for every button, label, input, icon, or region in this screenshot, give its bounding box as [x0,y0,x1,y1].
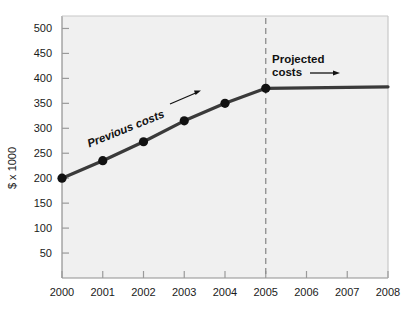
x-tick-label: 2006 [294,286,318,298]
x-tick-label: 2007 [335,286,359,298]
chart-canvas: 50100150200250300350400450500 2000200120… [0,0,402,312]
y-tick-label: 300 [34,122,52,134]
y-tick-label: 150 [34,197,52,209]
y-tick-label: 350 [34,97,52,109]
data-point-marker [139,137,148,146]
y-axis-title: $ x 1000 [6,147,18,189]
data-point-marker [180,116,189,125]
y-tick-label: 100 [34,222,52,234]
y-tick-label: 200 [34,172,52,184]
y-tick-label: 250 [34,147,52,159]
y-tick-label: 400 [34,72,52,84]
x-tick-label: 2000 [50,286,74,298]
projected-costs-annotation-line1: Projected [272,53,324,65]
x-tick-label: 2003 [172,286,196,298]
x-tick-label: 2004 [213,286,237,298]
data-point-marker [98,156,107,165]
y-tick-label: 450 [34,47,52,59]
y-tick-label: 500 [34,22,52,34]
x-tick-label: 2008 [376,286,400,298]
data-point-marker [57,174,66,183]
cost-projection-chart: 50100150200250300350400450500 2000200120… [0,0,402,312]
x-tick-label: 2005 [254,286,278,298]
projected-costs-line [266,87,388,88]
x-tick-label: 2002 [131,286,155,298]
plot-area-background [62,16,388,278]
x-axis-ticks: 200020012002200320042005200620072008 [50,271,400,298]
x-tick-label: 2001 [91,286,115,298]
data-point-marker [220,99,229,108]
data-point-marker [261,84,270,93]
projected-costs-annotation-line2: costs [272,66,302,78]
y-tick-label: 50 [40,247,52,259]
